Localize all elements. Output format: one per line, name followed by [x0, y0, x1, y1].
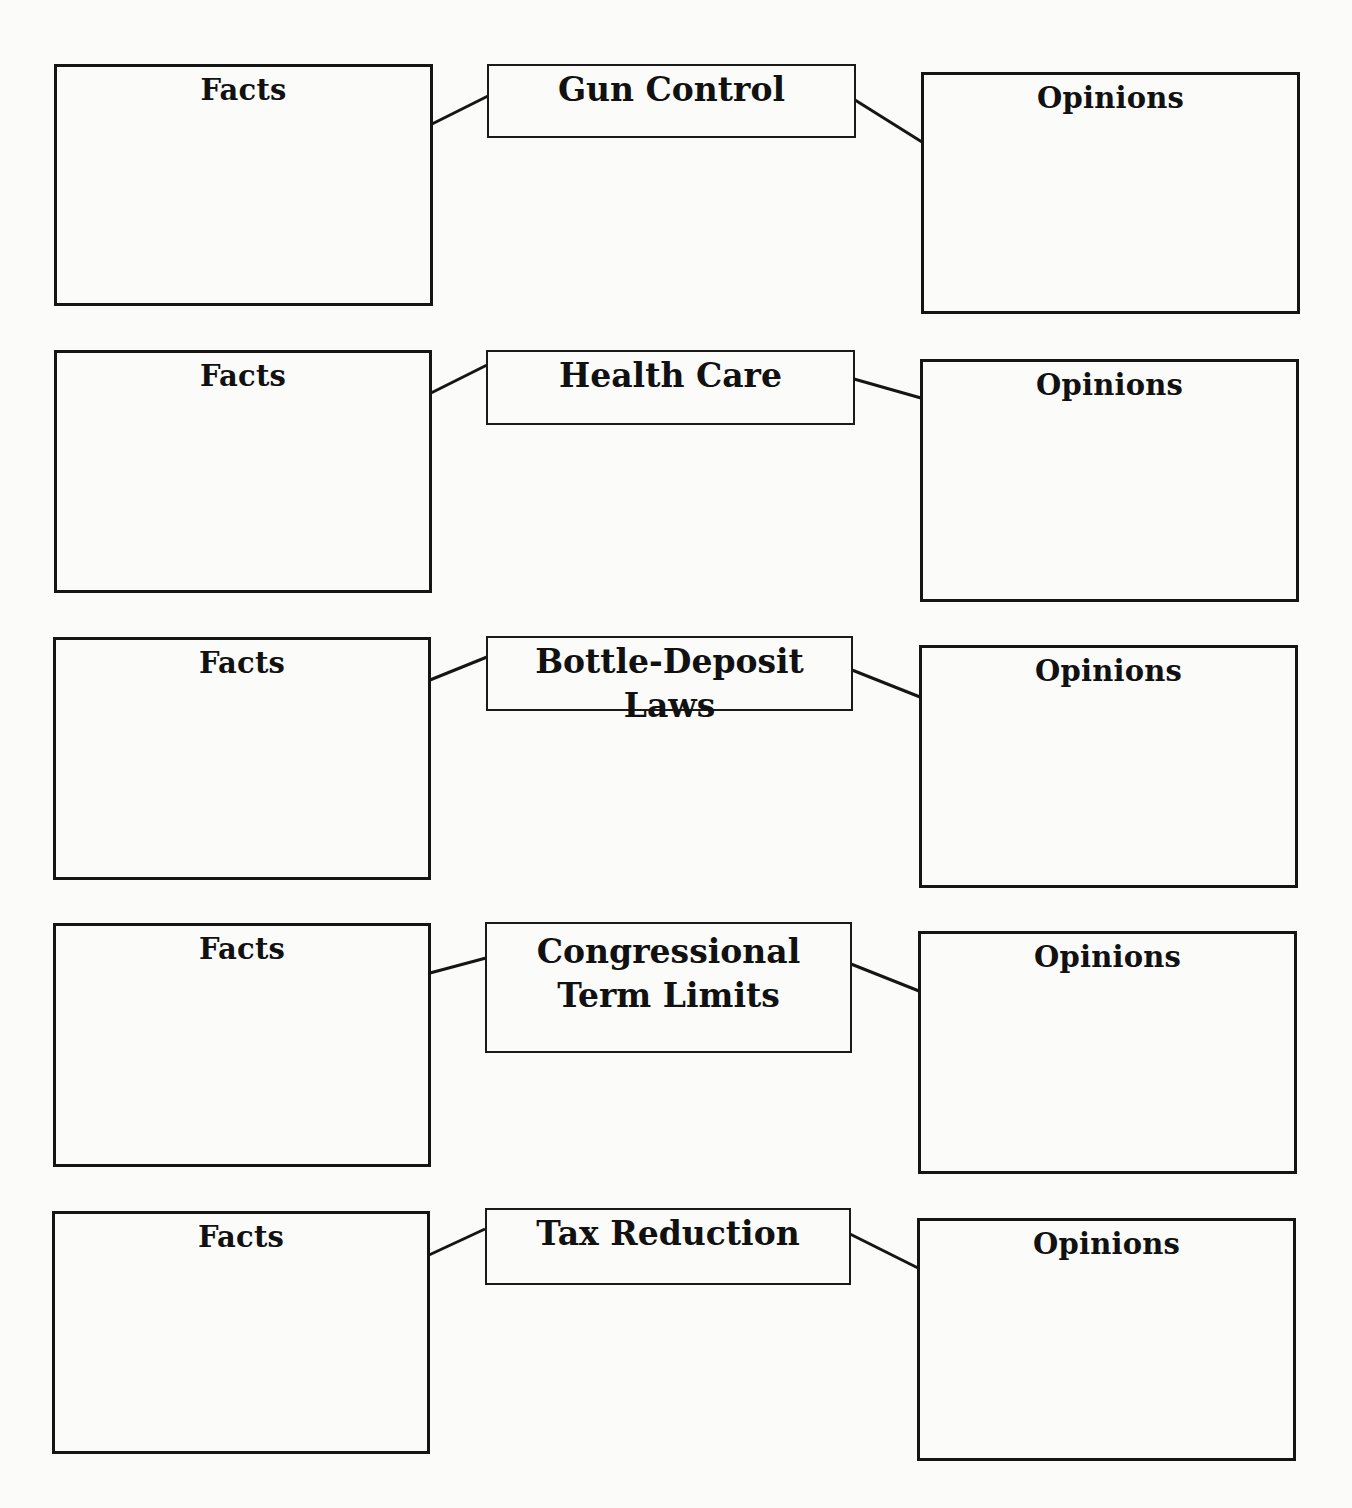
connector-opinions-tax-reduction — [850, 1234, 918, 1268]
facts-label: Facts — [57, 73, 430, 107]
opinions-box-gun-control: Opinions — [921, 72, 1300, 314]
facts-box-term-limits: Facts — [53, 923, 431, 1167]
topic-label-line-1: Congressional — [487, 930, 850, 974]
connector-facts-bottle-deposit — [430, 657, 487, 680]
facts-label: Facts — [56, 932, 428, 966]
connector-facts-health-care — [431, 365, 487, 393]
connector-facts-gun-control — [432, 96, 488, 124]
opinions-label: Opinions — [924, 81, 1297, 115]
opinions-label: Opinions — [920, 1227, 1293, 1261]
facts-label: Facts — [55, 1220, 427, 1254]
facts-label: Facts — [57, 359, 429, 393]
connector-facts-term-limits — [430, 958, 486, 973]
opinions-label: Opinions — [923, 368, 1296, 402]
connector-opinions-health-care — [854, 379, 921, 398]
topic-label: Gun Control — [558, 70, 785, 109]
topic-label: Health Care — [559, 356, 782, 395]
opinions-box-bottle-deposit: Opinions — [919, 645, 1298, 888]
opinions-box-term-limits: Opinions — [918, 931, 1297, 1174]
topic-box-gun-control: Gun Control — [487, 64, 856, 138]
facts-box-gun-control: Facts — [54, 64, 433, 306]
topic-box-health-care: Health Care — [486, 350, 855, 425]
topic-label-line-2: Term Limits — [487, 974, 850, 1018]
facts-label: Facts — [56, 646, 428, 680]
connector-facts-tax-reduction — [429, 1229, 485, 1255]
topic-label: Tax Reduction — [536, 1214, 799, 1253]
connector-opinions-term-limits — [851, 964, 919, 991]
topic-box-tax-reduction: Tax Reduction — [485, 1208, 851, 1285]
connector-opinions-bottle-deposit — [852, 670, 920, 697]
topic-box-term-limits: Congressional Term Limits — [485, 922, 852, 1053]
facts-box-bottle-deposit: Facts — [53, 637, 431, 880]
topic-box-bottle-deposit: Bottle-Deposit Laws — [486, 636, 853, 711]
connector-opinions-gun-control — [855, 100, 922, 142]
opinions-box-tax-reduction: Opinions — [917, 1218, 1296, 1461]
opinions-box-health-care: Opinions — [920, 359, 1299, 602]
facts-box-tax-reduction: Facts — [52, 1211, 430, 1454]
opinions-label: Opinions — [921, 940, 1294, 974]
facts-box-health-care: Facts — [54, 350, 432, 593]
opinions-label: Opinions — [922, 654, 1295, 688]
